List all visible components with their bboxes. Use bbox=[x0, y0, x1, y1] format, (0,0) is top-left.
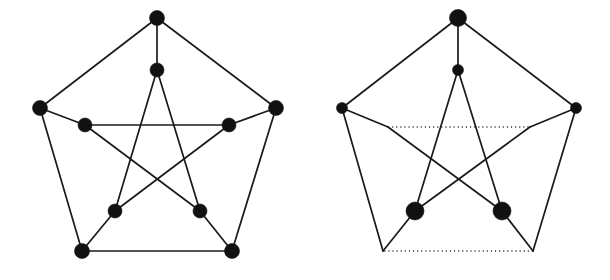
graph-edge-pentagram-i1-i3 bbox=[415, 127, 530, 211]
graph-node-outer-right bbox=[571, 103, 582, 114]
graph-node-inner-bottom-right bbox=[493, 202, 511, 220]
graph-node-outer-top bbox=[150, 11, 165, 26]
graph-edge-outer-cycle-o0-o1 bbox=[458, 18, 576, 108]
graph-edge-outer-cycle-o1-o2 bbox=[533, 108, 576, 251]
graph-edge-pentagram-i2-i4 bbox=[85, 125, 200, 211]
graph-node-inner-bottom-left bbox=[406, 202, 424, 220]
graph-node-inner-right bbox=[222, 118, 236, 132]
graph-diagram-svg bbox=[0, 0, 610, 280]
graph-edge-pentagram-i0-i2 bbox=[157, 70, 200, 211]
panel-petersen-graph-full bbox=[33, 11, 284, 259]
graph-edge-outer-cycle-o4-o0 bbox=[342, 18, 458, 108]
graph-edge-outer-cycle-o4-o0 bbox=[40, 18, 157, 108]
graph-node-outer-bottom-left bbox=[75, 244, 90, 259]
graph-node-outer-bottom-right bbox=[225, 244, 240, 259]
graph-node-inner-left bbox=[78, 118, 92, 132]
graph-edge-pentagram-i1-i3 bbox=[115, 125, 229, 211]
graph-edge-pentagram-i3-i0 bbox=[115, 70, 157, 211]
graph-node-outer-left bbox=[337, 103, 348, 114]
graph-edge-pentagram-i3-i0 bbox=[415, 70, 458, 211]
graph-edge-outer-cycle-o1-o2 bbox=[232, 108, 276, 251]
graph-node-inner-bottom-right bbox=[193, 204, 207, 218]
graph-edge-outer-cycle-o3-o4 bbox=[342, 108, 383, 251]
edge-layer bbox=[342, 18, 576, 251]
graph-edge-spoke-o4-i4 bbox=[342, 108, 388, 127]
graph-node-inner-top bbox=[453, 65, 464, 76]
graph-node-outer-top bbox=[450, 10, 467, 27]
figure-canvas bbox=[0, 0, 610, 280]
graph-node-outer-right bbox=[269, 101, 284, 116]
graph-edge-pentagram-i2-i4 bbox=[388, 127, 502, 211]
node-layer bbox=[33, 11, 284, 259]
graph-node-inner-top bbox=[150, 63, 164, 77]
graph-edge-pentagram-i0-i2 bbox=[458, 70, 502, 211]
panel-petersen-graph-reduced bbox=[337, 10, 582, 252]
graph-edge-spoke-o1-i1 bbox=[530, 108, 576, 127]
edge-layer bbox=[40, 18, 276, 251]
graph-edge-outer-cycle-o3-o4 bbox=[40, 108, 82, 251]
graph-node-inner-bottom-left bbox=[108, 204, 122, 218]
node-layer bbox=[337, 10, 582, 221]
graph-edge-outer-cycle-o0-o1 bbox=[157, 18, 276, 108]
graph-node-outer-left bbox=[33, 101, 48, 116]
